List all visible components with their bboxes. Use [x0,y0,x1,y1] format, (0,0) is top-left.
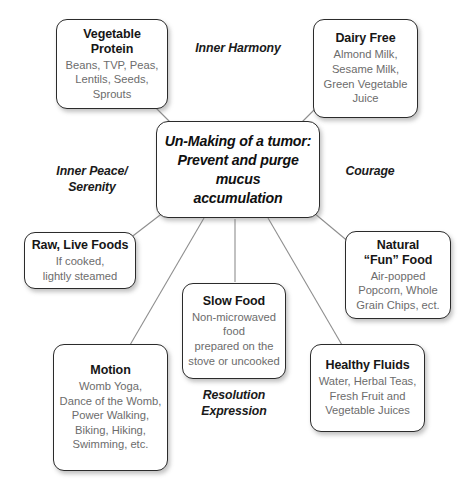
edge-label-courage: Courage [322,164,418,180]
center-node[interactable]: Un-Making of a tumor: Prevent and purge … [156,121,320,218]
node-dairy-free[interactable]: Dairy Free Almond Milk, Sesame Milk, Gre… [313,19,418,118]
node-body: Air-popped Popcorn, Whole Grain Chips, e… [356,269,439,313]
node-body: Womb Yoga, Dance of the Womb, Power Walk… [60,379,162,452]
node-natural-fun-food[interactable]: Natural “Fun” Food Air-popped Popcorn, W… [345,231,451,319]
node-title: Motion [90,363,130,378]
diagram-canvas: Un-Making of a tumor: Prevent and purge … [0,0,472,488]
node-body: Almond Milk, Sesame Milk, Green Vegetabl… [324,47,408,105]
node-body: Non-microwaved food prepared on the stov… [188,310,279,368]
node-raw-live-foods[interactable]: Raw, Live Foods If cooked, lightly steam… [24,232,136,289]
node-motion[interactable]: Motion Womb Yoga, Dance of the Womb, Pow… [53,344,168,471]
node-title: Slow Food [203,294,265,309]
node-vegetable-protein[interactable]: Vegetable Protein Beans, TVP, Peas, Lent… [56,19,168,109]
node-body: If cooked, lightly steamed [43,254,118,283]
edge-label-inner-peace-serenity: Inner Peace/ Serenity [36,164,148,195]
node-slow-food[interactable]: Slow Food Non-microwaved food prepared o… [182,283,286,379]
node-title: Dairy Free [335,31,395,46]
node-body: Water, Herbal Teas, Fresh Fruit and Vege… [319,374,417,418]
node-title: Natural “Fun” Food [364,238,432,268]
center-node-title: Un-Making of a tumor: Prevent and purge … [165,132,311,208]
node-body: Beans, TVP, Peas, Lentils, Seeds, Sprout… [66,58,159,102]
node-title: Healthy Fluids [325,358,409,373]
node-healthy-fluids[interactable]: Healthy Fluids Water, Herbal Teas, Fresh… [310,344,425,432]
node-title: Vegetable Protein [62,27,162,57]
edge-label-inner-harmony: Inner Harmony [180,41,296,57]
node-title: Raw, Live Foods [32,238,129,253]
edge-label-resolution-expression: Resolution Expression [178,388,290,419]
